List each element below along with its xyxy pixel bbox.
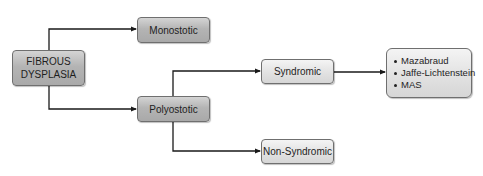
- edge-polyostotic-to-non-syndromic: [173, 122, 260, 151]
- syndrome-bullet-list: Mazabraud Jaffe-Lichtenstein MAS: [394, 55, 475, 91]
- root-label-line1: FIBROUS: [21, 55, 77, 68]
- syndrome-item-jaffe-lichtenstein: Jaffe-Lichtenstein: [394, 67, 475, 79]
- syndrome-item-mazabraud: Mazabraud: [394, 55, 475, 67]
- node-fibrous-dysplasia: FIBROUS DYSPLASIA: [12, 50, 85, 86]
- node-monostotic: Monostotic: [137, 17, 210, 43]
- non-syndromic-label: Non-Syndromic: [263, 146, 332, 157]
- polyostotic-label: Polyostotic: [149, 104, 197, 115]
- node-syndrome-list: Mazabraud Jaffe-Lichtenstein MAS: [386, 48, 472, 98]
- root-label-line2: DYSPLASIA: [21, 68, 77, 81]
- monostotic-label: Monostotic: [149, 25, 197, 36]
- node-syndromic: Syndromic: [261, 59, 334, 84]
- fibrous-dysplasia-classification-diagram: FIBROUS DYSPLASIA Monostotic Polyostotic…: [0, 0, 483, 176]
- syndrome-item-mas: MAS: [394, 79, 475, 91]
- node-non-syndromic: Non-Syndromic: [261, 139, 334, 164]
- edge-polyostotic-to-syndromic: [173, 71, 260, 96]
- edge-root-to-polyostotic: [49, 86, 136, 109]
- edge-root-to-monostotic: [49, 29, 136, 50]
- syndromic-label: Syndromic: [274, 66, 321, 77]
- node-polyostotic: Polyostotic: [137, 96, 210, 122]
